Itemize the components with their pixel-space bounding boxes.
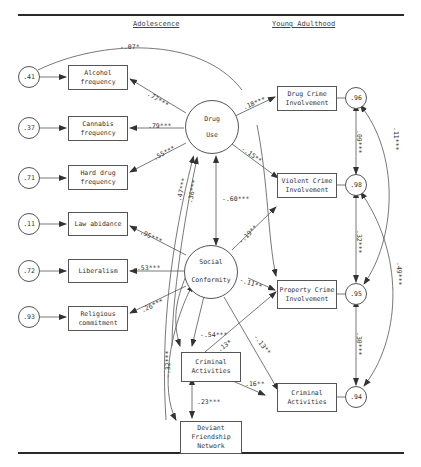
label-err41-drugcrime: -.07* (120, 43, 140, 51)
indicator-religious: Religious commitment (68, 306, 128, 331)
label-cannabis-loading: .79*** (148, 122, 171, 130)
label-err96-98: .09*** (355, 130, 363, 153)
outcome-criminal-activities: Criminal Activities (277, 383, 337, 412)
error-hard-drug: .71 (18, 167, 40, 189)
label-criminal-deviant-cov: .23*** (197, 398, 220, 406)
outcome-property-crime: Property Crime Involvement (277, 280, 337, 309)
indicator-liberalism: Liberalism (68, 259, 128, 283)
deviant-friendship-network: Deviant Friendship Network (180, 421, 242, 454)
error-law: .11 (18, 213, 40, 235)
error-criminal-activities-ya: .94 (345, 386, 367, 408)
drug-use-line2: Use (186, 131, 238, 139)
error-alcohol: .41 (18, 66, 40, 88)
latent-drug-use: Drug Use (185, 100, 239, 154)
label-err96-95: .11*** (392, 127, 400, 150)
social-conformity-line1: Social (185, 258, 237, 266)
social-conformity-line2: Conformity (185, 276, 237, 284)
label-err95-94: .30*** (355, 332, 363, 355)
error-drug-crime: .96 (345, 87, 367, 109)
label-drug-social-cov: -.60*** (222, 195, 249, 203)
criminal-activities-adolescence: Criminal Activities (181, 352, 241, 382)
label-liberalism-loading: -.53*** (133, 264, 160, 272)
error-religious: .93 (18, 306, 40, 328)
error-property-crime: .95 (345, 283, 367, 305)
drug-use-line1: Drug (186, 115, 238, 123)
indicator-hard-drug: Hard drug frequency (68, 165, 128, 190)
outcome-violent-crime: Violent Crime Involvement (277, 173, 337, 198)
label-err98-94: .49*** (395, 262, 403, 285)
label-criminal-criminal-ya: .16** (245, 380, 265, 388)
latent-social-conformity: Social Conformity (184, 245, 238, 299)
error-liberalism: .72 (18, 260, 40, 282)
indicator-law-abidance: Law abidance (68, 212, 128, 236)
error-cannabis: .37 (18, 117, 40, 139)
outcome-drug-crime: Drug Crime Involvement (277, 86, 337, 111)
indicator-alcohol: Alcohol frequency (68, 65, 128, 90)
label-deviant-social-cov: -.32*** (164, 351, 172, 378)
indicator-cannabis: Cannabis frequency (68, 116, 128, 141)
label-social-criminal-cov: -.54*** (200, 331, 227, 339)
label-err98-95: .32*** (355, 230, 363, 253)
error-violent-crime: .98 (345, 174, 367, 196)
